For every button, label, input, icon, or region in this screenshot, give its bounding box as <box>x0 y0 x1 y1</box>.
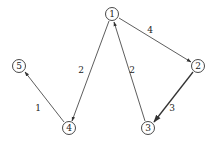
edge-weight-3-to-1: 2 <box>129 65 135 75</box>
node-4: 4 <box>63 122 76 135</box>
edge-1-to-2 <box>119 18 191 62</box>
edge-2-to-3 <box>154 72 193 122</box>
nodes-layer: 1 2 3 4 5 <box>13 8 205 135</box>
node-4-label: 4 <box>66 123 72 133</box>
edge-weight-1-to-4: 2 <box>78 65 84 75</box>
node-5-label: 5 <box>16 61 22 71</box>
node-1: 1 <box>106 8 119 21</box>
edge-weight-2-to-3: 3 <box>169 103 175 113</box>
edge-weight-4-to-5: 1 <box>35 103 41 113</box>
node-1-label: 1 <box>109 9 115 19</box>
edges-layer: 4 2 2 3 1 <box>25 18 193 122</box>
edge-4-to-5 <box>25 72 64 122</box>
node-5: 5 <box>13 60 26 73</box>
node-3: 3 <box>142 122 155 135</box>
node-3-label: 3 <box>145 123 151 133</box>
edge-weight-1-to-2: 4 <box>147 25 153 35</box>
node-2-label: 2 <box>195 61 201 71</box>
node-2: 2 <box>192 60 205 73</box>
directed-graph-diagram: 4 2 2 3 1 1 2 3 4 5 <box>0 0 212 145</box>
